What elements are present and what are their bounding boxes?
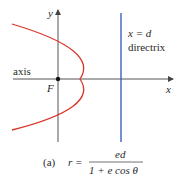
directrix-equation: x = d <box>127 27 152 39</box>
parabola-curve <box>12 24 84 130</box>
y-axis-label: y <box>47 7 53 19</box>
conic-diagram: y x axis F x = d directrix (a) r = ed 1 … <box>0 0 184 177</box>
x-axis-label: x <box>165 83 171 95</box>
caption-prefix: (a) <box>43 156 56 169</box>
caption-denominator: 1 + e cos θ <box>89 164 138 176</box>
caption-numerator: ed <box>115 148 126 160</box>
focus-point <box>56 77 60 81</box>
focus-label: F <box>46 82 54 94</box>
axis-label: axis <box>13 65 31 77</box>
caption-lhs: r = <box>68 156 82 168</box>
directrix-label: directrix <box>128 41 166 53</box>
